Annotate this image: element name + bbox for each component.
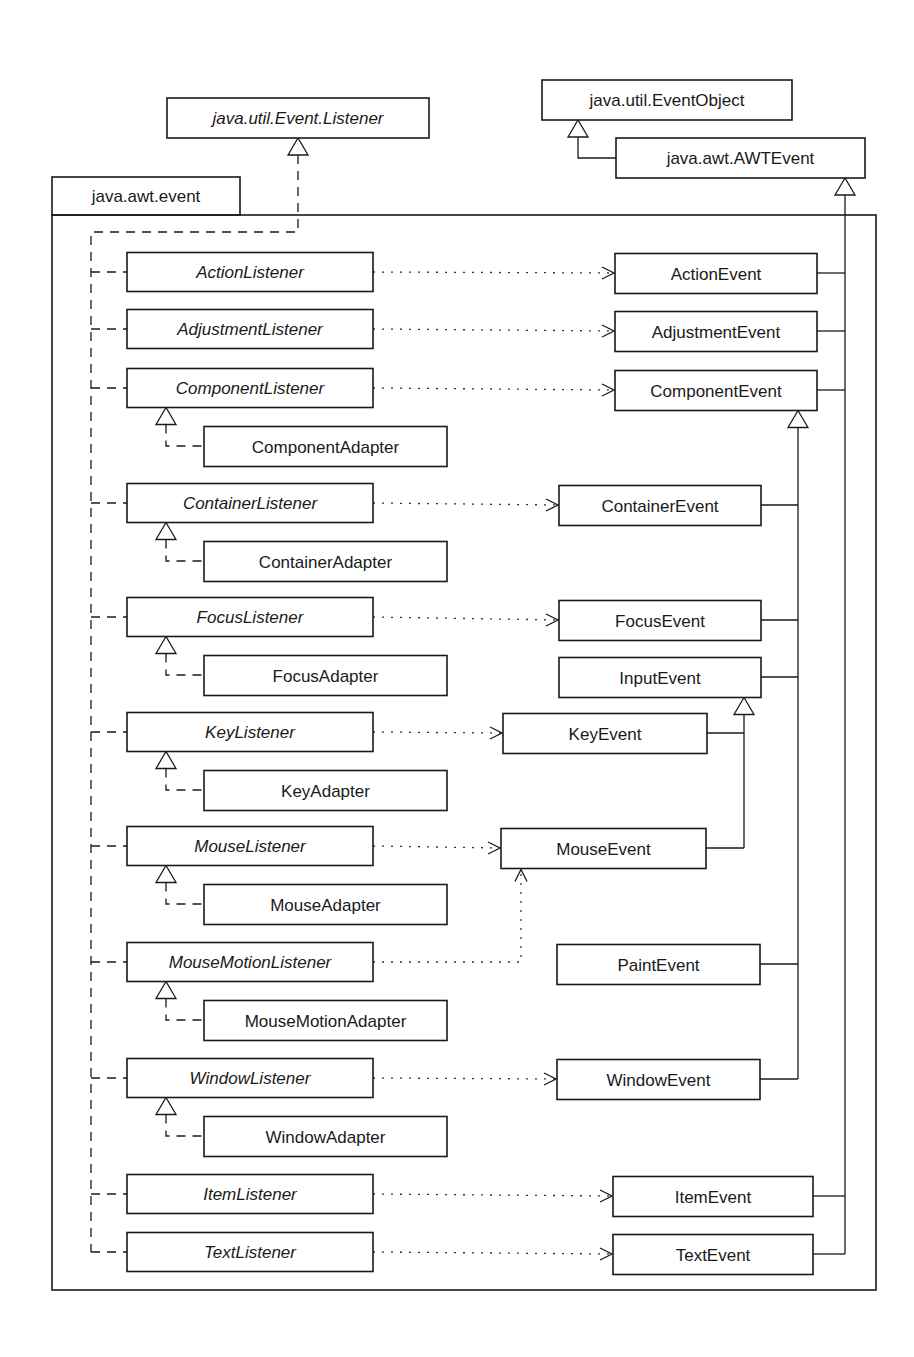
dependency-link [373, 1194, 612, 1196]
class-java-util-event-listener[interactable]: java.util.Event.Listener [167, 98, 429, 138]
class-mouse-motion-adapter[interactable]: MouseMotionAdapter [204, 1001, 447, 1041]
adapter-realization-link [166, 999, 204, 1021]
class-name: WindowListener [190, 1069, 312, 1088]
realization-arrow-icon [156, 982, 176, 999]
class-java-util-event-object[interactable]: java.util.EventObject [542, 80, 792, 120]
class-name: ComponentEvent [650, 382, 782, 401]
class-component-adapter[interactable]: ComponentAdapter [204, 427, 447, 467]
generalization-arrow-icon [734, 698, 754, 715]
dependency-arrow-icon [600, 1248, 612, 1260]
class-name: PaintEvent [617, 956, 699, 975]
adapter-realization-link [166, 425, 204, 447]
class-name: ItemListener [203, 1185, 298, 1204]
adapter-realization-link [166, 769, 204, 791]
dependency-link [373, 1078, 556, 1079]
class-mouse-event[interactable]: MouseEvent [501, 829, 706, 869]
class-name: MouseEvent [556, 840, 651, 859]
class-java-awt-awtevent[interactable]: java.awt.AWTEvent [616, 138, 865, 178]
interface-item-listener[interactable]: ItemListener [127, 1175, 373, 1214]
dependency-arrow-icon [546, 499, 558, 511]
class-name: java.util.Event.Listener [210, 109, 384, 128]
adapter-realization-link [166, 1115, 204, 1137]
class-name: KeyListener [205, 723, 296, 742]
class-name: ActionEvent [671, 265, 762, 284]
class-name: TextListener [204, 1243, 297, 1262]
interface-container-listener[interactable]: ContainerListener [127, 484, 373, 523]
dependency-arrow-icon [488, 842, 500, 854]
class-name: InputEvent [619, 669, 701, 688]
interface-mouse-motion-listener[interactable]: MouseMotionListener [127, 943, 373, 982]
adapter-realization-link [166, 540, 204, 562]
package-name: java.awt.event [91, 187, 201, 206]
generalization-arrow-icon [568, 120, 588, 137]
class-name: ActionListener [195, 263, 305, 282]
realization-arrow-icon [156, 637, 176, 654]
generalization-arrow-icon [835, 178, 855, 195]
class-container-event[interactable]: ContainerEvent [559, 486, 761, 526]
class-paint-event[interactable]: PaintEvent [557, 945, 760, 985]
class-input-event[interactable]: InputEvent [559, 658, 761, 698]
interface-component-listener[interactable]: ComponentListener [127, 369, 373, 408]
dependency-link [373, 732, 502, 733]
dependency-link [373, 846, 500, 848]
interface-adjustment-listener[interactable]: AdjustmentListener [127, 310, 373, 349]
interface-action-listener[interactable]: ActionListener [127, 253, 373, 292]
class-name: KeyEvent [569, 725, 642, 744]
class-action-event[interactable]: ActionEvent [615, 254, 817, 294]
class-name: AdjustmentListener [176, 320, 324, 339]
class-container-adapter[interactable]: ContainerAdapter [204, 542, 447, 582]
class-name: ComponentListener [176, 379, 326, 398]
interface-focus-listener[interactable]: FocusListener [127, 598, 373, 637]
class-name: TextEvent [676, 1246, 751, 1265]
realization-arrow-icon [288, 138, 308, 155]
class-name: FocusEvent [615, 612, 705, 631]
adapter-realization-link [166, 654, 204, 676]
class-name: ContainerEvent [601, 497, 718, 516]
dependency-arrow-icon [600, 1190, 612, 1202]
class-key-event[interactable]: KeyEvent [503, 714, 707, 754]
class-name: MouseMotionAdapter [245, 1012, 407, 1031]
dependency-link [373, 272, 614, 273]
class-text-event[interactable]: TextEvent [613, 1235, 813, 1275]
class-name: MouseAdapter [270, 896, 381, 915]
dependency-link [373, 1252, 612, 1254]
class-name: FocusListener [197, 608, 305, 627]
class-name: MouseListener [194, 837, 307, 856]
class-focus-adapter[interactable]: FocusAdapter [204, 656, 447, 696]
dependency-link [373, 329, 614, 331]
class-name: ItemEvent [675, 1188, 752, 1207]
class-name: FocusAdapter [273, 667, 379, 686]
class-name: ComponentAdapter [252, 438, 400, 457]
class-component-event[interactable]: ComponentEvent [615, 371, 817, 411]
class-name: WindowEvent [607, 1071, 711, 1090]
class-adjustment-event[interactable]: AdjustmentEvent [615, 312, 817, 352]
class-name: MouseMotionListener [169, 953, 333, 972]
class-window-event[interactable]: WindowEvent [557, 1060, 760, 1100]
interface-key-listener[interactable]: KeyListener [127, 713, 373, 752]
realization-arrow-icon [156, 752, 176, 769]
class-key-adapter[interactable]: KeyAdapter [204, 771, 447, 811]
dependency-arrow-icon [546, 614, 558, 626]
class-boxes: java.util.Event.Listenerjava.util.EventO… [127, 80, 865, 1275]
adapter-realization-link [166, 883, 204, 905]
class-name: java.util.EventObject [589, 91, 745, 110]
awtevent-extends-eventobject [578, 137, 616, 158]
class-name: java.awt.AWTEvent [666, 149, 815, 168]
dependency-link [373, 388, 614, 390]
dependency-link [373, 503, 558, 505]
class-name: ContainerAdapter [259, 553, 393, 572]
interface-mouse-listener[interactable]: MouseListener [127, 827, 373, 866]
interface-window-listener[interactable]: WindowListener [127, 1059, 373, 1098]
realization-arrow-icon [156, 523, 176, 540]
uml-class-diagram: java.awt.event java.util.Event.Listenerj… [0, 0, 914, 1357]
generalization-arrow-icon [788, 411, 808, 428]
class-name: KeyAdapter [281, 782, 370, 801]
class-item-event[interactable]: ItemEvent [613, 1177, 813, 1217]
class-name: ContainerListener [183, 494, 319, 513]
interface-text-listener[interactable]: TextListener [127, 1233, 373, 1272]
class-mouse-adapter[interactable]: MouseAdapter [204, 885, 447, 925]
class-window-adapter[interactable]: WindowAdapter [204, 1117, 447, 1157]
class-name: AdjustmentEvent [652, 323, 781, 342]
class-name: WindowAdapter [265, 1128, 385, 1147]
class-focus-event[interactable]: FocusEvent [559, 601, 761, 641]
